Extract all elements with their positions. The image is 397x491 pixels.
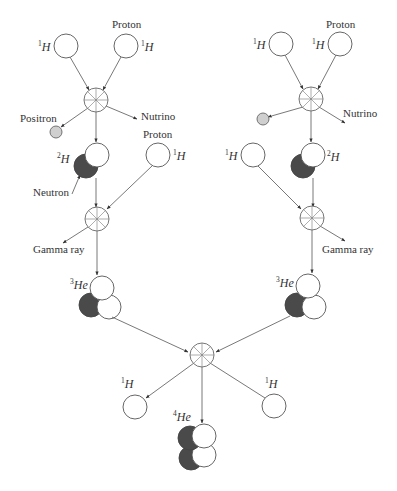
final-stage: [112, 316, 290, 470]
label-left-positron: Positron: [20, 112, 57, 124]
label-left-he3: 3He: [70, 277, 88, 292]
left-branch: [50, 34, 170, 319]
right-proton: [328, 32, 352, 56]
helium4: [178, 424, 216, 470]
label-right-h1-a: 1H: [253, 37, 267, 52]
label-final-h1-right: 1H: [265, 376, 279, 391]
label-left-proton: Proton: [112, 18, 142, 30]
right-deuterium: [291, 143, 325, 178]
label-left-gamma: Gamma ray: [33, 243, 85, 255]
right-collision-2: [300, 206, 324, 230]
label-left-nutrino: Nutrino: [141, 110, 176, 122]
label-left-h1-c: 1H: [173, 148, 187, 163]
label-right-nutrino: Nutrino: [343, 107, 378, 119]
label-right-he3: 3He: [276, 275, 294, 290]
final-collision: [190, 343, 214, 367]
label-left-h2: 2H: [57, 151, 71, 166]
pp-chain-diagram: 1H Proton 1H Positron Nutrino 2H Proton …: [0, 0, 397, 491]
right-h1-a: [269, 32, 293, 56]
label-he4: 4He: [173, 409, 191, 424]
label-neutron: Neutron: [33, 186, 70, 198]
final-h1-right: [262, 394, 286, 418]
left-proton-2: [146, 143, 170, 167]
left-proton: [114, 34, 138, 58]
label-final-h1-left: 1H: [121, 376, 135, 391]
label-right-proton: Proton: [326, 18, 356, 30]
label-left-proton-2: Proton: [143, 128, 173, 140]
label-left-h1-a: 1H: [38, 39, 52, 54]
right-h1-b: [241, 143, 265, 167]
right-collision-1: [299, 87, 323, 111]
left-h1-a: [54, 34, 78, 58]
left-collision-1: [84, 88, 108, 112]
label-right-h2: 2H: [327, 149, 341, 164]
label-right-gamma: Gamma ray: [322, 243, 374, 255]
label-right-h1-b: 1H: [312, 37, 326, 52]
left-positron: [50, 126, 62, 138]
left-deuterium: [74, 143, 109, 178]
right-positron: [257, 113, 269, 125]
right-branch: [241, 32, 352, 319]
label-left-h1-b: 1H: [141, 39, 155, 54]
final-h1-left: [123, 395, 147, 419]
left-collision-2: [85, 207, 109, 231]
label-right-h1-c: 1H: [225, 148, 239, 163]
